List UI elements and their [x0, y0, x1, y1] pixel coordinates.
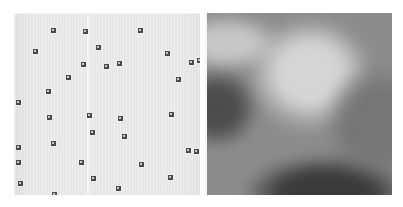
point-marker [118, 116, 123, 121]
texture-blob-layer [205, 13, 392, 195]
point-marker [87, 113, 92, 118]
point-marker [116, 186, 121, 191]
figure-root [0, 0, 403, 207]
point-marker [90, 130, 95, 135]
point-marker [83, 29, 88, 34]
point-pattern-panel [14, 13, 200, 195]
panel-paper-texture [15, 14, 200, 195]
point-marker [96, 45, 101, 50]
point-marker [122, 134, 127, 139]
point-marker [16, 160, 21, 165]
point-marker [189, 60, 194, 65]
point-marker [16, 145, 21, 150]
point-marker [186, 148, 191, 153]
point-marker [104, 64, 109, 69]
vertical-divider-line [87, 14, 89, 195]
point-marker [176, 77, 181, 82]
point-marker [139, 162, 144, 167]
point-marker [168, 175, 173, 180]
point-marker [46, 89, 51, 94]
point-marker [18, 181, 23, 186]
point-marker [47, 115, 52, 120]
panel-vignette [15, 14, 200, 195]
point-marker [165, 51, 170, 56]
point-marker [51, 141, 56, 146]
point-marker [91, 176, 96, 181]
point-marker [16, 100, 21, 105]
point-marker [117, 61, 122, 66]
point-marker [169, 112, 174, 117]
point-marker [66, 75, 71, 80]
point-marker [33, 49, 38, 54]
point-marker [194, 149, 199, 154]
point-marker [52, 192, 57, 196]
point-marker [197, 58, 201, 63]
point-marker [138, 28, 143, 33]
grayscale-texture-panel [205, 13, 392, 195]
point-marker [79, 160, 84, 165]
point-marker [51, 28, 56, 33]
point-marker [81, 62, 86, 67]
